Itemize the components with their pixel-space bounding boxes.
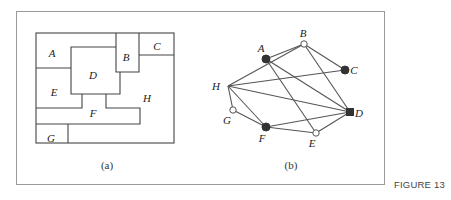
edge-b-c — [304, 44, 345, 70]
edge-d-h — [228, 86, 350, 112]
edge-e-f — [266, 127, 316, 133]
node-a-marker — [262, 55, 270, 63]
graph-panel: ABCDEFGH (b) — [211, 27, 363, 172]
node-label-e: E — [308, 137, 316, 149]
border-f-h — [36, 94, 140, 124]
region-label-a: A — [48, 47, 56, 59]
graph-edges — [228, 44, 350, 133]
node-c-marker — [341, 66, 349, 74]
node-label-g: G — [223, 114, 231, 126]
graph-labels: ABCDEFGH — [211, 27, 363, 149]
edge-f-g — [233, 110, 266, 127]
figure-stage: ABCDEFGH (a) ABCDEFGH (b) FIGURE 13 — [0, 0, 451, 200]
figure-number-label: FIGURE 13 — [394, 179, 445, 190]
region-label-d: D — [88, 69, 97, 81]
region-label-h: H — [142, 92, 152, 104]
edge-a-b — [266, 44, 304, 59]
map-panel: ABCDEFGH (a) — [36, 33, 174, 172]
node-label-f: F — [258, 132, 266, 144]
node-e-marker — [313, 130, 319, 136]
border-d-top-left — [71, 47, 116, 68]
node-label-a: A — [257, 42, 265, 54]
border-e-f — [36, 94, 82, 108]
node-label-c: C — [350, 64, 358, 76]
caption-a: (a) — [101, 159, 114, 172]
edge-a-d — [266, 59, 350, 112]
node-b-marker — [301, 41, 307, 47]
node-label-b: B — [300, 27, 307, 39]
figure-svg: ABCDEFGH (a) ABCDEFGH (b) — [0, 0, 451, 200]
region-label-c: C — [153, 40, 161, 52]
node-d-marker — [346, 108, 354, 116]
node-f-marker — [262, 123, 270, 131]
region-label-f: F — [89, 107, 97, 119]
region-label-b: B — [123, 51, 130, 63]
node-g-marker — [230, 107, 236, 113]
caption-b: (b) — [285, 159, 298, 172]
edge-b-d — [304, 44, 350, 112]
region-labels: ABCDEFGH — [47, 40, 161, 144]
node-label-d: D — [354, 107, 363, 119]
region-label-e: E — [50, 86, 58, 98]
region-label-g: G — [47, 132, 55, 144]
node-label-h: H — [211, 80, 221, 92]
edge-b-h — [228, 44, 304, 86]
